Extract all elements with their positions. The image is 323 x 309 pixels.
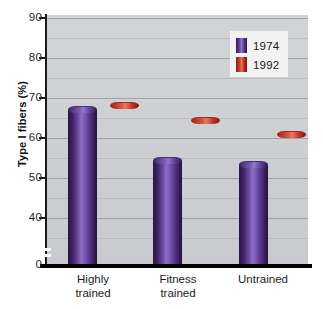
catlabel-line1: Untrained (218, 272, 308, 286)
legend-item-1974: 1974 (236, 38, 279, 53)
y-ticklabel-0: 0 (35, 258, 42, 270)
x-category-label-highly-trained: Highly trained (48, 272, 138, 300)
plot-area: 1974 1992 (46, 15, 308, 265)
bar-1974-untrained (239, 164, 268, 265)
y-ticklabel-90: 90 (29, 11, 42, 23)
y-axis-break-mark-2 (38, 254, 51, 257)
bar-1992-highly-trained (110, 105, 139, 265)
y-axis-break-mark (38, 248, 51, 251)
chart-figure: 1974 1992 90 80 70 60 50 40 0 Type I fib… (0, 0, 323, 309)
bar-1992-untrained (277, 134, 306, 265)
bar-cap (277, 131, 306, 138)
y-ticklabel-50: 50 (29, 171, 42, 183)
gridline-75 (46, 78, 308, 79)
bar-1974-fitness-trained (153, 160, 182, 265)
y-axis-line (45, 14, 47, 266)
bar-1992-fitness-trained (191, 120, 220, 265)
y-ticklabel-80: 80 (29, 51, 42, 63)
legend-item-1992: 1992 (236, 57, 279, 72)
x-axis-line (40, 264, 312, 268)
catlabel-line1: Highly (48, 272, 138, 286)
gridline-90 (46, 18, 308, 19)
legend-label-1992: 1992 (253, 59, 279, 71)
bar-cap (239, 161, 268, 168)
x-category-label-fitness-trained: Fitness trained (133, 272, 223, 300)
chart-legend: 1974 1992 (230, 31, 288, 77)
bar-1974-highly-trained (68, 109, 97, 265)
legend-swatch-1992 (236, 57, 247, 72)
catlabel-line1: Fitness (133, 272, 223, 286)
legend-swatch-1974 (236, 38, 247, 53)
bar-cap (153, 157, 182, 164)
y-ticklabel-40: 40 (29, 211, 42, 223)
x-category-label-untrained: Untrained (218, 272, 308, 286)
catlabel-line2: trained (133, 286, 223, 300)
gridline-70 (46, 98, 308, 99)
bar-cap (110, 102, 139, 109)
y-axis-title: Type I fibers (%) (16, 64, 28, 184)
catlabel-line2: trained (48, 286, 138, 300)
y-ticklabel-60: 60 (29, 131, 42, 143)
legend-label-1974: 1974 (253, 40, 279, 52)
y-ticklabel-70: 70 (29, 91, 42, 103)
bar-cap (68, 106, 97, 113)
bar-cap (191, 117, 220, 124)
